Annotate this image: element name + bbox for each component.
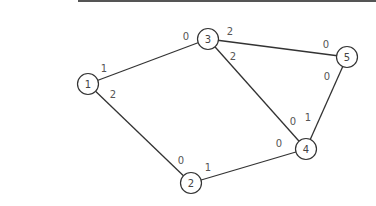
node-4: 4: [296, 139, 317, 160]
edge-label: 0: [290, 116, 296, 127]
svg-text:4: 4: [303, 144, 309, 155]
svg-text:3: 3: [205, 34, 211, 45]
svg-text:1: 1: [85, 79, 91, 90]
edge-label: 0: [183, 31, 189, 42]
edge-1-2: [88, 84, 191, 183]
edge-3-4: [208, 39, 306, 149]
svg-text:5: 5: [344, 52, 350, 63]
edge-label: 0: [323, 39, 329, 50]
edge-label: 0: [276, 138, 282, 149]
svg-text:2: 2: [188, 178, 194, 189]
edge-label: 2: [227, 26, 233, 37]
node-2: 2: [181, 173, 202, 194]
graph-diagram: 1 0 2 0 2 0 2 0 0 1 1 0 1 2 3 4 5: [0, 0, 376, 206]
edge-label: 1: [205, 162, 211, 173]
edge-label: 1: [305, 112, 311, 123]
edge-label: 2: [110, 89, 116, 100]
edge-label: 0: [324, 71, 330, 82]
edge-label: 0: [178, 155, 184, 166]
node-1: 1: [78, 74, 99, 95]
node-5: 5: [337, 47, 358, 68]
edge-label: 2: [230, 51, 236, 62]
node-3: 3: [198, 29, 219, 50]
edge-label: 1: [101, 63, 107, 74]
edge-1-3: [88, 39, 208, 84]
